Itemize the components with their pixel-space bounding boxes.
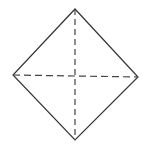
horizontal-dashed-diagonal [13,75,138,77]
diamond-diagram [0,0,146,151]
